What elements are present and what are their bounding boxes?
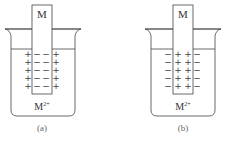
svg-text:+: + bbox=[184, 81, 192, 91]
figure-b bbox=[145, 5, 221, 116]
svg-text:−: − bbox=[33, 81, 41, 91]
caption-b: (b) bbox=[153, 123, 213, 133]
charges-a: +−−+ +−−+ +−−+ +−−+ +−−+ bbox=[24, 49, 60, 91]
svg-text:−: − bbox=[164, 81, 172, 91]
svg-text:+: + bbox=[24, 81, 32, 91]
ion-label-b: M2+ bbox=[153, 101, 213, 112]
caption-a: (a) bbox=[12, 123, 72, 133]
svg-text:+: + bbox=[174, 81, 182, 91]
electrode-label-b: M bbox=[153, 8, 213, 20]
ion-label-a: M2+ bbox=[12, 101, 72, 112]
svg-text:+: + bbox=[52, 81, 60, 91]
svg-text:−: − bbox=[42, 81, 50, 91]
svg-text:−: − bbox=[193, 81, 201, 91]
electrode-label-a: M bbox=[12, 8, 72, 20]
